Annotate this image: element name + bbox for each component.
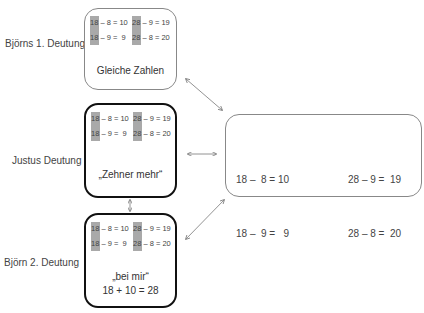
equation: 28 – 8 = 20 [133,127,171,142]
equation: 28 – 9 = 19 [132,16,170,31]
equation: 18 – 9 = 9 [91,237,129,252]
equation: 18 – 8 = 10 [91,112,129,127]
equation: 18 – 9 = 9 [91,127,129,142]
equation: 18 – 9 = 9 [90,31,128,46]
box-justus: 18 – 8 = 10 18 – 9 = 9 28 – 9 = 19 28 – … [84,103,177,198]
task-equations-right: 28 – 9 = 19 28 – 8 = 20 [348,135,401,279]
label-bjoern1: Björns 1. Deutung [5,38,85,49]
equation: 28 – 9 = 19 [348,171,401,189]
equation: 18 – 8 = 10 [236,171,289,189]
caption-line2: 18 + 10 = 28 [86,285,175,296]
equation: 28 – 9 = 19 [133,112,171,127]
equation: 28 – 8 = 20 [133,237,171,252]
box-bjoern1: 18 – 8 = 10 18 – 9 = 9 28 – 9 = 19 28 – … [84,8,177,90]
equation: 28 – 8 = 20 [132,31,170,46]
label-bjoern2: Björn 2. Deutung [4,257,79,268]
equation: 28 – 9 = 19 [133,222,171,237]
equation-grid: 18 – 8 = 10 18 – 9 = 9 28 – 9 = 19 28 – … [91,112,175,142]
equation: 28 – 8 = 20 [348,225,401,243]
caption-line1: „bei mir“ [86,271,175,282]
equation-grid: 18 – 8 = 10 18 – 9 = 9 28 – 9 = 19 28 – … [90,16,174,46]
equation: 18 – 8 = 10 [90,16,128,31]
equation: 18 – 8 = 10 [91,222,129,237]
caption: „Zehner mehr“ [86,169,175,180]
arrow-bjoern1-to-task [186,79,222,110]
box-bjoern2: 18 – 8 = 10 18 – 9 = 9 28 – 9 = 19 28 – … [84,213,177,308]
box-task: 18 – 8 = 10 18 – 9 = 9 28 – 9 = 19 28 – … [225,114,422,197]
label-justus: Justus Deutung [12,155,82,166]
caption: Gleiche Zahlen [85,65,176,76]
equation: 18 – 9 = 9 [236,225,289,243]
arrow-bjoern2-to-task [186,200,224,239]
task-equations-left: 18 – 8 = 10 18 – 9 = 9 [236,135,289,279]
equation-grid: 18 – 8 = 10 18 – 9 = 9 28 – 9 = 19 28 – … [91,222,175,252]
